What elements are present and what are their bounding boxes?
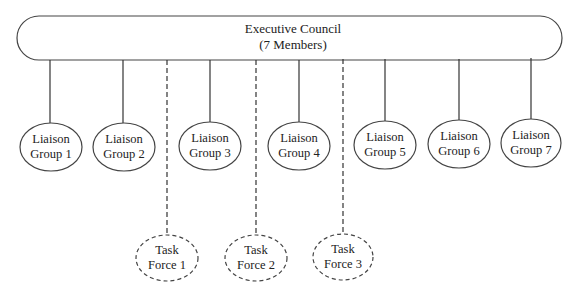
liaison-group-6: Liaison Group 6 [428, 120, 490, 168]
task-force-3-label-line1: Task [331, 242, 355, 256]
liaison-group-4: Liaison Group 4 [268, 122, 330, 170]
liaison-group-3-label-line2: Group 3 [189, 146, 230, 160]
liaison-group-7-label-line1: Liaison [512, 128, 550, 142]
task-force-2-label-line1: Task [244, 243, 268, 257]
council-subtitle: (7 Members) [259, 37, 327, 52]
liaison-group-1: Liaison Group 1 [20, 123, 82, 171]
liaison-group-3-label-line1: Liaison [191, 131, 229, 145]
executive-council-node: Executive Council (7 Members) [17, 16, 562, 60]
liaison-group-3: Liaison Group 3 [179, 122, 241, 170]
task-force-2: Task Force 2 [225, 235, 287, 281]
liaison-group-1-label-line2: Group 1 [30, 147, 71, 161]
liaison-group-2-label-line2: Group 2 [103, 147, 144, 161]
liaison-group-2-label-line1: Liaison [105, 132, 143, 146]
task-force-1-label-line2: Force 1 [148, 258, 186, 272]
task-force-3-label-line2: Force 3 [324, 257, 362, 271]
liaison-group-4-label-line1: Liaison [280, 131, 318, 145]
liaison-group-4-label-line2: Group 4 [278, 146, 320, 160]
liaison-group-6-label-line1: Liaison [440, 129, 478, 143]
liaison-connectors [50, 58, 531, 123]
liaison-group-1-label-line1: Liaison [32, 132, 70, 146]
liaison-group-6-label-line2: Group 6 [438, 144, 479, 158]
liaison-group-7-label-line2: Group 7 [510, 143, 551, 157]
liaison-group-5-label-line2: Group 5 [364, 145, 405, 159]
task-force-1: Task Force 1 [136, 235, 198, 281]
council-title: Executive Council [245, 21, 342, 36]
liaison-group-7: Liaison Group 7 [501, 119, 561, 167]
task-force-2-label-line2: Force 2 [237, 258, 275, 272]
liaison-group-5: Liaison Group 5 [354, 121, 416, 169]
liaison-group-2: Liaison Group 2 [93, 123, 155, 171]
task-force-1-label-line1: Task [155, 243, 179, 257]
org-chart-diagram: Executive Council (7 Members) Liaison Gr… [0, 0, 582, 297]
task-force-3: Task Force 3 [313, 234, 373, 280]
liaison-group-5-label-line1: Liaison [366, 130, 404, 144]
